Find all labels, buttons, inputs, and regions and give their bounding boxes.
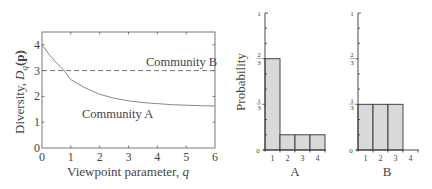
diversity-line-chart: 0 1 2 3 4 5 6 0 1 2 3 4 Viewpoint parame… — [12, 32, 218, 179]
x-tick-label-a: 2 — [286, 154, 290, 163]
bar-chart-a: 1 2 3 1 3 0 1 2 3 4 A Probability — [233, 10, 326, 179]
y-tick-label: 1 — [34, 115, 40, 129]
y-tick-label: 4 — [34, 38, 40, 52]
x-tick-label-a: 4 — [316, 154, 320, 163]
x-tick-label: 5 — [183, 150, 189, 164]
x-tick-label: 2 — [97, 150, 103, 164]
bars-b — [358, 104, 403, 150]
x-tick-label-a: 1 — [271, 154, 275, 163]
x-tick-label: 3 — [126, 150, 132, 164]
x-tick-label: 4 — [154, 150, 160, 164]
bar-b-1 — [358, 104, 373, 150]
bar-a-1 — [265, 59, 280, 150]
y-tick-label-2-3-den: 3 — [350, 59, 354, 67]
panel-b-label: B — [383, 164, 392, 179]
bar-chart-b: 1 2 3 1 3 0 1 2 3 4 B — [349, 10, 419, 179]
bar-a-3 — [295, 135, 310, 150]
x-tick-label-b: 1 — [364, 154, 368, 163]
figure: 0 1 2 3 4 5 6 0 1 2 3 4 Viewpoint parame… — [0, 0, 432, 189]
y-tick-label-1-3-den: 3 — [257, 104, 261, 112]
bar-a-2 — [280, 135, 295, 150]
x-tick-label-b: 2 — [379, 154, 383, 163]
community-a-curve — [42, 45, 215, 106]
y-tick-label: 2 — [34, 89, 40, 103]
community-b-annotation: Community B — [146, 55, 217, 69]
y-tick-label: 3 — [34, 64, 40, 78]
y-axis-label: Diversity, Dq(p) — [12, 50, 29, 134]
y-tick-label: 0 — [34, 141, 40, 155]
y-tick-label-1: 1 — [350, 10, 354, 18]
plot-frame — [42, 32, 215, 148]
panel-a-label: A — [290, 164, 300, 179]
y-tick-label-0: 0 — [256, 147, 260, 155]
y-tick-label-1-3-den: 3 — [350, 104, 354, 112]
community-a-annotation: Community A — [82, 107, 153, 121]
bar-b-2 — [373, 104, 388, 150]
x-ticks — [71, 32, 186, 148]
x-axis-label: Viewpoint parameter, q — [67, 164, 189, 179]
bar-b-3 — [388, 104, 403, 150]
probability-axis-label: Probability — [233, 53, 248, 111]
y-tick-label-2-3-den: 3 — [257, 59, 261, 67]
bars-a — [265, 59, 325, 150]
x-tick-label-b: 3 — [394, 154, 398, 163]
x-tick-label: 6 — [212, 150, 218, 164]
y-tick-label-1: 1 — [257, 10, 261, 18]
y-tick-label-0: 0 — [349, 147, 353, 155]
bar-a-4 — [310, 135, 325, 150]
x-tick-label-b: 4 — [409, 154, 413, 163]
x-tick-label-a: 3 — [301, 154, 305, 163]
x-tick-label: 1 — [68, 150, 74, 164]
